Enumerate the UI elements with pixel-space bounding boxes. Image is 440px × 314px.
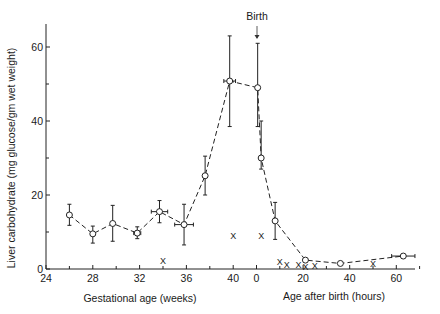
data-point-circle [400, 253, 406, 259]
chart: 020406024283236400204060 XXXXXXXXX Liver… [0, 0, 440, 314]
dashed-trend-line [69, 81, 403, 263]
data-point-circle [202, 173, 208, 179]
x-tick-label-hours: 40 [344, 272, 356, 284]
x-marker: X [230, 231, 236, 241]
data-point-circle [134, 230, 140, 236]
data-point-circle [227, 78, 233, 84]
x-marker: X [258, 231, 264, 241]
birth-annotation: Birth [246, 10, 268, 22]
data-point-circle [337, 260, 343, 266]
x-marker: X [302, 262, 308, 272]
data-point-circle [156, 209, 162, 215]
y-tick-label: 20 [31, 189, 43, 201]
y-tick-label: 40 [31, 115, 43, 127]
x-marker: X [295, 260, 301, 270]
x-tick-label-weeks: 28 [87, 272, 99, 284]
x-tick-label-weeks: 36 [181, 272, 193, 284]
x-marker: X [160, 256, 166, 266]
x-tick-label-weeks: 32 [134, 272, 146, 284]
data-point-circle [181, 222, 187, 228]
data-point-circle [258, 155, 264, 161]
x-tick-label-weeks: 24 [40, 272, 52, 284]
axes: 020406024283236400204060 [31, 24, 419, 284]
x-marker: X [277, 257, 283, 267]
y-axis-label: Liver carbohydrate (mg glucose/gm wet we… [5, 48, 17, 269]
x-axis-label-gestational: Gestational age (weeks) [83, 292, 196, 304]
data-point-circle [255, 85, 261, 91]
y-tick-label: 60 [31, 41, 43, 53]
data-series: XXXXXXXXX [66, 36, 415, 272]
birth-arrow-icon [255, 26, 260, 39]
x-marker: X [370, 259, 376, 269]
data-point-circle [110, 220, 116, 226]
data-point-circle [272, 218, 278, 224]
data-point-circle [66, 212, 72, 218]
x-tick-label-weeks: 40 [227, 272, 239, 284]
data-point-circle [90, 231, 96, 237]
x-marker: X [312, 261, 318, 271]
x-axis-label-hours: Age after birth (hours) [283, 290, 385, 302]
x-tick-label-hours: 20 [297, 272, 309, 284]
x-marker: X [284, 260, 290, 270]
x-tick-label-hours: 60 [390, 272, 402, 284]
x-tick-label-hours: 0 [254, 272, 260, 284]
